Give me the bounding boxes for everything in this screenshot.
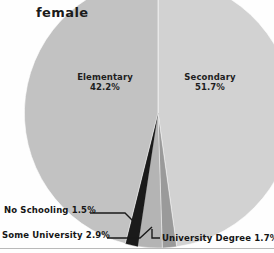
pie-svg: [0, 0, 274, 253]
callout-label-no-schooling: No Schooling 1.5%: [4, 205, 96, 215]
slice-label-secondary-value: 51.7%: [195, 82, 225, 92]
bottom-divider: [0, 248, 274, 249]
callout-label-university-degree: University Degree 1.7%: [162, 233, 274, 243]
callout-label-some-university: Some University 2.9%: [2, 230, 110, 240]
chart-title: female: [36, 5, 88, 20]
slice-label-elementary-value: 42.2%: [90, 82, 120, 92]
slice-label-secondary: Secondary 51.7%: [168, 72, 252, 93]
pie-chart-figure: female Elementary 42.2% Secondary 51.7% …: [0, 0, 274, 253]
slice-label-secondary-name: Secondary: [184, 72, 235, 82]
pie-slice-secondary[interactable]: [158, 0, 274, 247]
pie-graphic: [0, 0, 274, 253]
slice-label-elementary-name: Elementary: [77, 72, 133, 82]
slice-label-elementary: Elementary 42.2%: [63, 72, 147, 93]
